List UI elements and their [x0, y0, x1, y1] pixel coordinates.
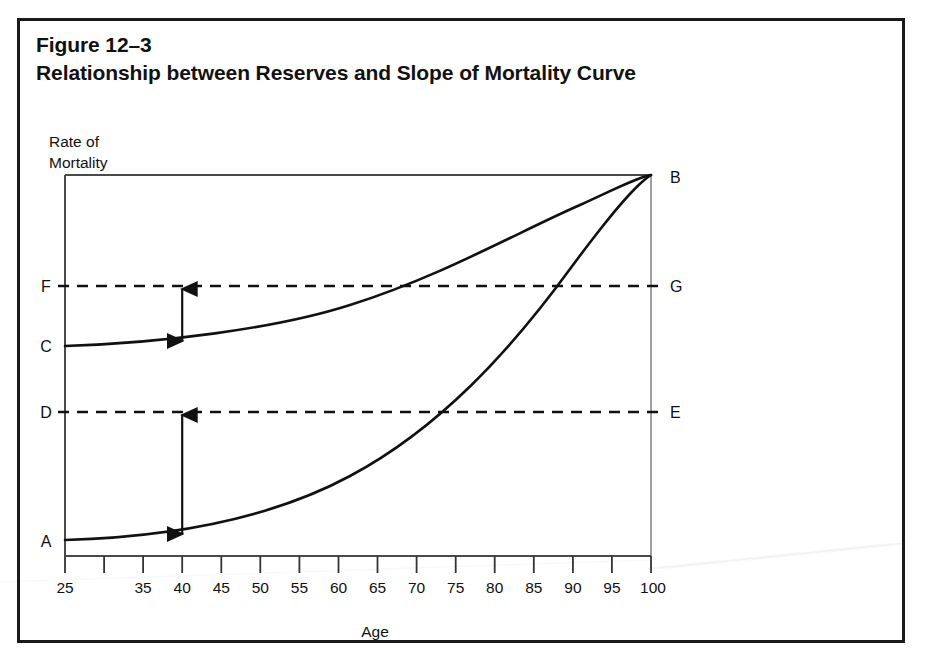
- x-axis-tick-labels: 25 35 40 45 50 55 60 65 70 75 80 85 90 9…: [56, 579, 666, 596]
- x-axis-title: Age: [82, 623, 668, 641]
- point-label-c: C: [40, 338, 52, 355]
- point-label-a: A: [41, 533, 52, 550]
- plot-frame: [65, 175, 651, 556]
- curve-a-to-b: [65, 175, 651, 540]
- right-point-labels: B G E: [670, 169, 682, 421]
- point-label-g: G: [670, 278, 682, 295]
- x-tick-label: 70: [408, 579, 426, 596]
- x-tick-label: 45: [213, 579, 230, 596]
- x-tick-label: 75: [447, 579, 464, 596]
- x-axis-ticks: [65, 556, 651, 573]
- x-tick-label: 80: [486, 579, 504, 596]
- figure-page: Figure 12–3 Relationship between Reserve…: [0, 0, 930, 666]
- x-tick-label: 90: [564, 579, 582, 596]
- reference-lines: [58, 286, 658, 412]
- x-tick-label: 65: [369, 579, 386, 596]
- curve-c-to-b: [65, 175, 651, 346]
- x-tick-label: 35: [134, 579, 151, 596]
- left-point-labels: F C D A: [40, 278, 52, 550]
- x-tick-label: 50: [252, 579, 270, 596]
- figure-frame: Figure 12–3 Relationship between Reserve…: [17, 18, 905, 643]
- x-tick-label: 55: [291, 579, 308, 596]
- plot-area: 25 35 40 45 50 55 60 65 70 75 80 85 90 9…: [20, 21, 908, 646]
- x-tick-label: 40: [174, 579, 192, 596]
- point-label-f: F: [41, 278, 51, 295]
- point-label-e: E: [670, 404, 681, 421]
- x-tick-label: 25: [56, 579, 73, 596]
- x-tick-label: 95: [603, 579, 620, 596]
- point-label-b: B: [670, 169, 681, 186]
- x-tick-label: 85: [525, 579, 542, 596]
- x-tick-label: 100: [640, 579, 666, 596]
- point-label-d: D: [40, 404, 52, 421]
- x-tick-label: 60: [330, 579, 348, 596]
